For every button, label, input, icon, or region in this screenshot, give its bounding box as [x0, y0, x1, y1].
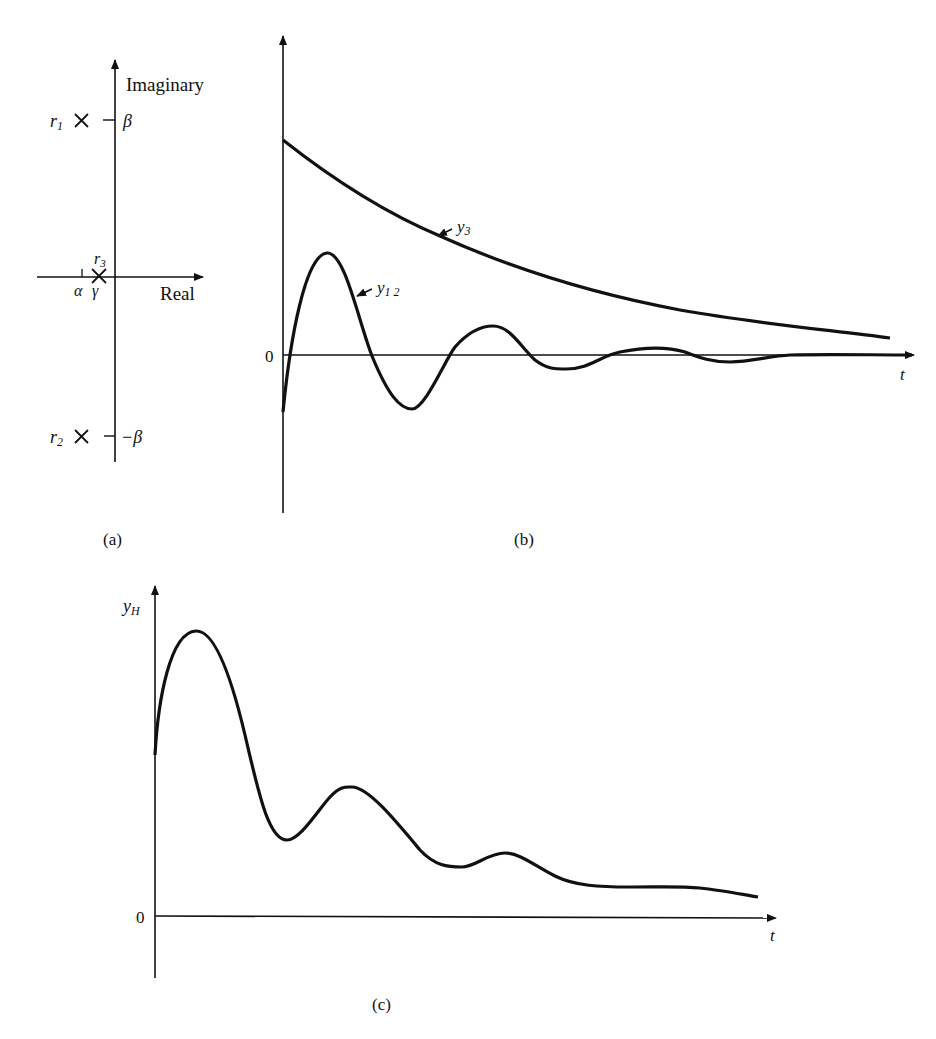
- panel-c-t-label: t: [770, 926, 776, 945]
- y12-pointer-icon: [357, 289, 372, 296]
- pole-r3-label: r3: [94, 250, 106, 269]
- real-axis-label: Real: [160, 283, 195, 304]
- gamma-label: γ: [92, 282, 99, 300]
- panel-c-zero-label: 0: [136, 908, 145, 927]
- beta-label: β: [122, 111, 132, 131]
- panel-c-caption: (c): [372, 995, 391, 1014]
- pole-r1-marker-icon: [75, 114, 88, 127]
- y12-label: y1 2: [375, 278, 400, 299]
- panel-c-y-label: yH: [121, 596, 141, 618]
- y12-curve: [283, 253, 912, 412]
- panel-b-caption: (b): [514, 530, 534, 549]
- figure: Imaginary Real r1 β r2 −β r3 α γ (a): [0, 0, 936, 1039]
- panel-c-total-response: 0 t yH (c): [121, 586, 776, 1014]
- panel-b-zero-label: 0: [265, 347, 274, 366]
- imaginary-axis-label: Imaginary: [126, 74, 205, 95]
- alpha-label: α: [74, 282, 83, 299]
- pole-r2-marker-icon: [75, 430, 88, 443]
- panel-b-t-label: t: [900, 365, 906, 384]
- panel-a-pole-plot: Imaginary Real r1 β r2 −β r3 α γ (a): [37, 60, 205, 549]
- pole-r1-label: r1: [50, 111, 63, 133]
- pole-r2-label: r2: [50, 427, 63, 449]
- panel-c-t-axis: [155, 916, 776, 918]
- y3-label: y3: [455, 217, 471, 238]
- yH-curve: [155, 631, 758, 897]
- y3-pointer-icon: [438, 229, 452, 236]
- pole-r3-marker-icon: [92, 269, 106, 283]
- y3-curve: [283, 140, 890, 338]
- neg-beta-label: −β: [121, 427, 142, 447]
- panel-a-caption: (a): [103, 530, 122, 549]
- panel-b-response-components: 0 t y3 y1 2 (b): [265, 36, 914, 549]
